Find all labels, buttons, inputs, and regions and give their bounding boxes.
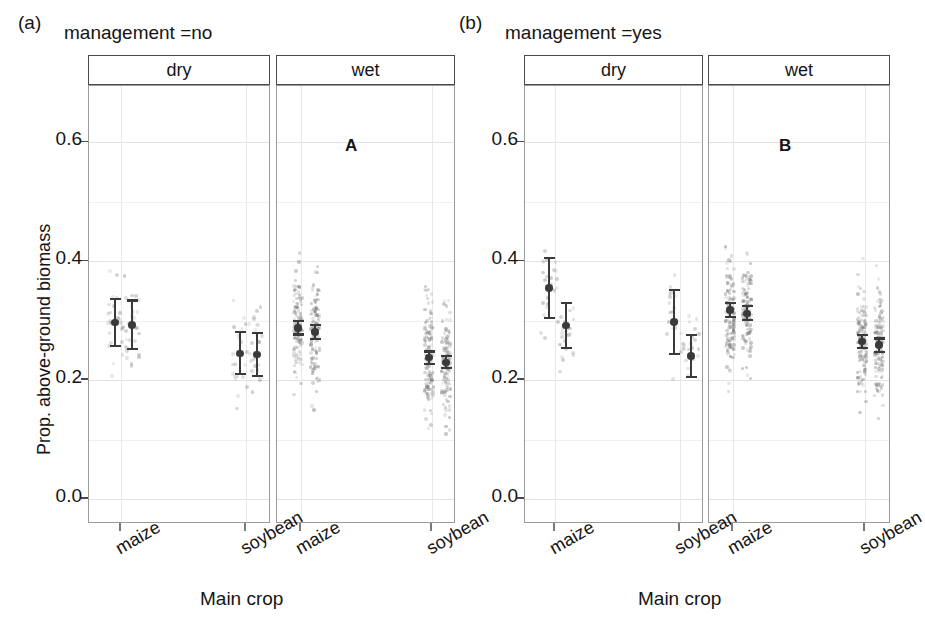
jitter-dot	[687, 314, 691, 318]
jitter-dot	[130, 362, 134, 366]
jitter-dot	[877, 277, 880, 280]
jitter-dot	[298, 251, 301, 254]
jitter-dot	[250, 341, 254, 345]
jitter-dot	[423, 327, 426, 330]
facet-strip-dry-a: dry	[88, 55, 270, 85]
jitter-dot	[316, 265, 319, 268]
gridline-y	[89, 261, 269, 262]
error-bar-cap	[127, 348, 138, 350]
jitter-dot	[861, 378, 864, 381]
jitter-dot	[556, 320, 560, 324]
panel-a-letter: (a)	[18, 12, 41, 34]
error-bar-cap	[874, 351, 885, 353]
gridline-x	[246, 86, 247, 522]
error-bar-cap	[310, 324, 321, 326]
jitter-dot	[749, 345, 752, 348]
jitter-dot	[423, 408, 426, 411]
jitter-dot	[726, 349, 729, 352]
jitter-dot	[432, 326, 435, 329]
jitter-dot	[865, 314, 868, 317]
jitter-dot	[297, 260, 300, 263]
jitter-dot	[295, 305, 298, 308]
jitter-dot	[688, 320, 692, 324]
error-bar-cap	[561, 347, 572, 349]
jitter-dot	[673, 273, 677, 277]
error-bar-cap	[293, 320, 304, 322]
jitter-dot	[260, 334, 264, 338]
jitter-dot	[684, 359, 688, 363]
jitter-dot	[112, 362, 116, 366]
jitter-dot	[732, 267, 735, 270]
facet-strip-wet-b: wet	[708, 55, 890, 85]
jitter-dot	[726, 281, 729, 284]
jitter-dot	[441, 319, 444, 322]
error-bar-cap	[235, 373, 246, 375]
y-tick-mark	[81, 141, 88, 142]
error-bar-cap	[561, 302, 572, 304]
jitter-dot	[541, 301, 545, 305]
jitter-dot	[879, 331, 882, 334]
gridline-y	[525, 380, 702, 381]
plot-area-b-dry	[524, 85, 703, 523]
jitter-dot	[858, 411, 861, 414]
x-tick-mark	[553, 523, 554, 531]
gridline-y-minor	[709, 440, 889, 441]
jitter-dot	[317, 308, 320, 311]
jitter-dot	[541, 271, 545, 275]
jitter-dot	[558, 370, 562, 374]
jitter-dot	[697, 347, 701, 351]
jitter-dot	[311, 371, 314, 374]
gridline-y	[89, 499, 269, 500]
gridline-y	[525, 261, 702, 262]
jitter-dot	[136, 310, 140, 314]
jitter-dot	[314, 299, 317, 302]
jitter-dot	[295, 376, 298, 379]
y-tick-mark	[517, 260, 524, 261]
jitter-dot	[251, 390, 255, 394]
mean-point	[670, 318, 678, 326]
jitter-dot	[665, 332, 669, 336]
jitter-dot	[431, 300, 434, 303]
mean-point	[253, 351, 261, 359]
jitter-dot	[746, 332, 749, 335]
jitter-dot	[863, 326, 866, 329]
gridline-y-minor	[525, 440, 702, 441]
error-bar-cap	[857, 347, 868, 349]
jitter-dot	[317, 315, 320, 318]
jitter-dot	[856, 273, 859, 276]
gridline-x	[432, 86, 433, 522]
jitter-dot	[879, 327, 882, 330]
jitter-dot	[726, 340, 729, 343]
jitter-dot	[427, 427, 430, 430]
panel-b-letter: (b)	[459, 12, 482, 34]
jitter-dot	[856, 376, 859, 379]
x-tick-mark	[299, 523, 300, 531]
y-tick-mark	[81, 497, 88, 498]
jitter-dot	[730, 254, 733, 257]
jitter-dot	[423, 371, 426, 374]
jitter-dot	[542, 260, 546, 264]
jitter-dot	[121, 353, 125, 357]
jitter-dot	[109, 341, 113, 345]
jitter-dot	[315, 294, 318, 297]
mean-point	[236, 350, 244, 358]
error-bar-cap	[874, 337, 885, 339]
jitter-dot	[107, 303, 111, 307]
jitter-dot	[881, 404, 884, 407]
jitter-dot	[233, 375, 237, 379]
gridline-y-minor	[277, 440, 454, 441]
jitter-dot	[316, 288, 319, 291]
jitter-dot	[231, 352, 235, 356]
error-bar-cap	[725, 316, 736, 318]
mean-point	[858, 338, 866, 346]
jitter-dot	[539, 331, 543, 335]
y-tick-mark	[517, 378, 524, 379]
jitter-dot	[293, 364, 296, 367]
gridline-y	[525, 499, 702, 500]
jitter-dot	[249, 359, 253, 363]
jitter-dot	[746, 373, 749, 376]
jitter-dot	[293, 288, 296, 291]
panel-b-title: management =yes	[505, 22, 662, 44]
gridline-x	[121, 86, 122, 522]
jitter-dot	[862, 290, 865, 293]
